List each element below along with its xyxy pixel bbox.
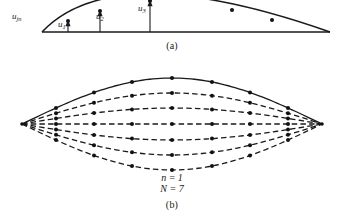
panel-b-node-c2-4 [170,91,174,95]
panel-b-node-c4-4 [170,122,174,126]
panel-b-left-vertex [20,122,24,126]
panel-b-node-c2-3 [130,94,134,98]
panel-a-node-5 [270,18,274,22]
panel-b-node-c4-7 [286,122,290,126]
panel-b-node-c4-2 [92,122,96,126]
panel-b-node-c4-5 [210,122,214,126]
panel-b-param-N: N = 7 [0,183,344,194]
panel-b-node-c5-1 [54,128,58,132]
panel-b-node-c4-1 [54,122,58,126]
panel-b-node-c6-3 [130,150,134,154]
panel-b [20,76,324,172]
panel-b-node-c6-2 [92,143,96,147]
panel-b-node-c7-6 [248,153,252,157]
panel-b-node-c6-4 [170,153,174,157]
panel-b-node-c1-5 [210,80,214,84]
label-u-jn: ujn [12,12,22,21]
panel-b-node-c3-5 [210,107,214,111]
panel-b-node-c4-6 [248,122,252,126]
label-u-1: u1 [58,20,66,29]
panel-b-node-c7-3 [130,164,134,168]
panel-b-node-c2-1 [54,111,58,115]
panel-b-node-c2-6 [248,101,252,105]
panel-a-caption: (a) [0,40,344,51]
panel-a [42,0,330,32]
panel-b-node-c5-2 [92,133,96,137]
panel-b-node-c7-5 [210,164,214,168]
panel-b-node-c3-4 [170,106,174,110]
panel-b-node-c1-4 [170,76,174,80]
label-u-3: u3 [138,4,146,13]
panel-b-node-c6-1 [54,133,58,137]
panel-b-node-c3-3 [130,107,134,111]
panel-b-node-c2-2 [92,101,96,105]
panel-b-node-c3-1 [54,116,58,120]
panel-b-node-c6-7 [286,133,290,137]
panel-b-node-c2-7 [286,111,290,115]
panel-b-node-c4-3 [130,122,134,126]
figure-root: ujn u1 u2 u3 (a) n = 1 N = 7 (b) [0,0,344,219]
label-u-1-subscript: 1 [63,23,66,30]
panel-a-deflected-curve [42,0,330,32]
label-u-3-subscript: 3 [143,7,146,14]
panel-b-node-c6-5 [210,150,214,154]
panel-b-node-c3-6 [248,111,252,115]
panel-b-node-c5-6 [248,133,252,137]
panel-b-node-c1-3 [130,80,134,84]
label-u-2-subscript: 2 [101,15,104,22]
panel-b-node-c1-6 [248,91,252,95]
panel-b-node-c5-4 [170,138,174,142]
panel-b-node-c5-7 [286,128,290,132]
panel-b-node-c5-5 [210,137,214,141]
panel-b-param-n: n = 1 [0,172,344,183]
panel-b-caption: (b) [0,199,344,210]
panel-b-node-c6-6 [248,143,252,147]
panel-b-right-vertex [320,122,324,126]
label-u-2: u2 [96,12,104,21]
panel-b-node-c1-7 [286,106,290,110]
panel-b-node-c1-2 [92,91,96,95]
panel-b-node-c1-1 [54,106,58,110]
panel-a-node-4 [230,8,234,12]
panel-b-node-c3-2 [92,111,96,115]
label-u-jn-subscript: jn [17,15,22,22]
panel-b-node-c7-7 [286,138,290,142]
panel-b-node-c7-1 [54,138,58,142]
panel-b-node-c3-7 [286,116,290,120]
panel-b-node-c2-5 [210,94,214,98]
panel-b-node-c5-3 [130,137,134,141]
panel-b-node-c7-2 [92,153,96,157]
